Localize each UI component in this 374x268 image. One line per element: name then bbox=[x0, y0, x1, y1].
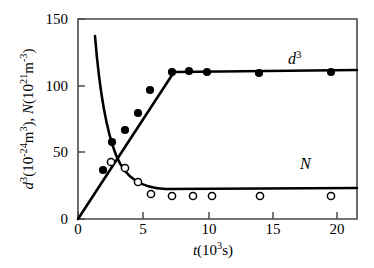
y-axis-ticks bbox=[78, 19, 85, 219]
y-axis-title-d-unit-exp: -24 bbox=[18, 143, 29, 157]
data-point bbox=[134, 178, 141, 185]
y-tick-label-50: 50 bbox=[42, 145, 68, 160]
x-axis-title-unit-tail: s) bbox=[222, 242, 233, 258]
y-axis-title-d-unit-m-exp: 3 bbox=[18, 126, 29, 131]
series-label-N: N bbox=[300, 155, 311, 173]
data-point bbox=[168, 192, 175, 199]
data-point bbox=[146, 86, 154, 94]
y-axis-title-d-var: d bbox=[20, 182, 36, 190]
y-axis-title: d3(10-24m3), N(1021m-3) bbox=[18, 49, 37, 190]
data-point bbox=[255, 69, 263, 77]
data-point bbox=[121, 164, 128, 171]
y-tick-label-100: 100 bbox=[42, 79, 68, 94]
x-tick-label-5: 5 bbox=[139, 222, 147, 237]
data-point bbox=[107, 158, 114, 165]
y-axis-title-n-unit-exp: 21 bbox=[18, 74, 29, 84]
data-point bbox=[327, 192, 334, 199]
y-tick-label-0: 0 bbox=[42, 212, 68, 227]
x-tick-label-0: 0 bbox=[74, 222, 82, 237]
x-axis-title: t(103s) bbox=[193, 240, 233, 259]
data-point bbox=[121, 126, 129, 134]
data-point bbox=[208, 192, 215, 199]
series-label-d3-exp: 3 bbox=[296, 48, 301, 60]
x-axis-title-unit-open: (10 bbox=[197, 242, 217, 258]
x-tick-label-20: 20 bbox=[330, 222, 345, 237]
data-point bbox=[256, 192, 263, 199]
y-axis-title-n-unit-m-exp: -3 bbox=[18, 54, 29, 63]
figure-container: 150 100 50 0 0 5 10 15 20 t(103s) d3(10-… bbox=[0, 0, 374, 268]
data-point bbox=[147, 190, 154, 197]
series-label-d3-var: d bbox=[288, 50, 296, 67]
data-point bbox=[189, 192, 196, 199]
y-tick-label-150: 150 bbox=[42, 12, 68, 27]
x-tick-label-15: 15 bbox=[266, 222, 281, 237]
data-point bbox=[134, 109, 142, 117]
data-point bbox=[108, 138, 116, 146]
data-point bbox=[168, 68, 176, 76]
data-point bbox=[185, 67, 193, 75]
d3-fit-line bbox=[78, 70, 357, 219]
y-axis-title-d-unit-close: ), bbox=[20, 114, 36, 127]
y-axis-title-n-unit-open: (10 bbox=[20, 84, 36, 104]
y-axis-title-n-unit-m: m bbox=[20, 62, 36, 74]
data-point bbox=[203, 68, 211, 76]
chart-canvas bbox=[0, 0, 374, 268]
y-axis-title-n-var: N bbox=[20, 104, 36, 114]
y-axis-title-d-exp: 3 bbox=[18, 177, 29, 182]
data-point bbox=[327, 68, 335, 76]
x-tick-label-10: 10 bbox=[202, 222, 217, 237]
series-label-d3: d3 bbox=[288, 48, 301, 68]
x-axis-ticks bbox=[78, 212, 337, 219]
y-axis-title-d-unit-open: (10 bbox=[20, 157, 36, 177]
y-axis-title-d-unit-m: m bbox=[20, 132, 36, 144]
y-axis-title-n-unit-close: ) bbox=[20, 49, 36, 54]
data-point bbox=[99, 166, 107, 174]
